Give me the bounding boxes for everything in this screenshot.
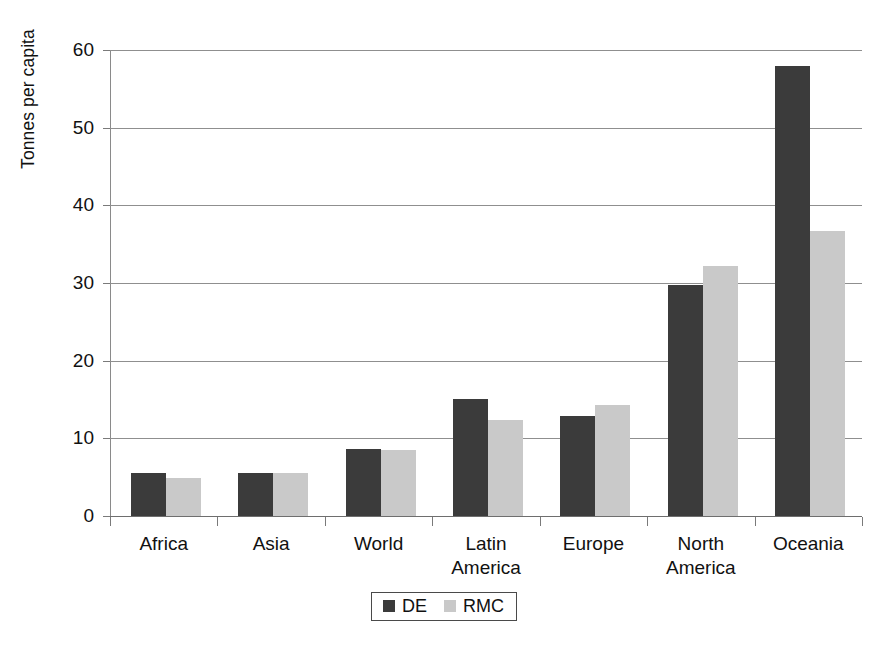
x-tick xyxy=(217,517,218,526)
y-tick-label: 20 xyxy=(24,351,94,370)
x-tick xyxy=(325,517,326,526)
x-axis-category-label: Oceania xyxy=(728,532,888,556)
x-label-line: America xyxy=(621,556,781,580)
bar-rmc xyxy=(273,473,308,516)
y-tick xyxy=(103,361,110,362)
bar-de xyxy=(775,66,810,516)
bar-rmc xyxy=(381,450,416,516)
y-tick xyxy=(103,438,110,439)
y-tick xyxy=(103,516,110,517)
figure-caption xyxy=(0,643,896,652)
bar-de xyxy=(453,399,488,516)
x-tick xyxy=(755,517,756,526)
bar-chart-figure: Tonnes per capita AfricaAsiaWorldLatinAm… xyxy=(0,0,896,652)
y-tick-label: 60 xyxy=(24,40,94,59)
legend-item-de: DE xyxy=(383,597,427,615)
x-tick xyxy=(432,517,433,526)
legend-swatch-icon xyxy=(383,600,395,612)
bar-de xyxy=(238,473,273,516)
y-tick xyxy=(103,205,110,206)
y-tick-label: 40 xyxy=(24,195,94,214)
gridline xyxy=(110,283,862,284)
y-tick-label: 10 xyxy=(24,428,94,447)
bar-rmc xyxy=(703,266,738,516)
y-tick xyxy=(103,283,110,284)
x-tick xyxy=(862,517,863,526)
gridline xyxy=(110,361,862,362)
x-tick xyxy=(540,517,541,526)
y-tick-label: 50 xyxy=(24,118,94,137)
bar-de xyxy=(131,473,166,516)
bar-rmc xyxy=(595,405,630,516)
bar-rmc xyxy=(166,478,201,516)
chart-legend: DERMC xyxy=(371,592,517,621)
y-axis-title: Tonnes per capita xyxy=(18,0,44,204)
bar-rmc xyxy=(810,231,845,516)
gridline xyxy=(110,516,862,517)
y-tick xyxy=(103,50,110,51)
bar-de xyxy=(346,449,381,516)
plot-area: AfricaAsiaWorldLatinAmericaEuropeNorthAm… xyxy=(110,50,862,516)
bar-de xyxy=(560,416,595,516)
bar-de xyxy=(668,285,703,516)
legend-label: DE xyxy=(402,597,427,615)
legend-label: RMC xyxy=(463,597,504,615)
gridline xyxy=(110,50,862,51)
x-tick xyxy=(110,517,111,526)
gridline xyxy=(110,205,862,206)
x-tick xyxy=(647,517,648,526)
gridline xyxy=(110,128,862,129)
x-label-line: America xyxy=(406,556,566,580)
legend-item-rmc: RMC xyxy=(444,597,504,615)
y-tick xyxy=(103,128,110,129)
legend-swatch-icon xyxy=(444,600,456,612)
bar-rmc xyxy=(488,420,523,516)
y-tick-label: 30 xyxy=(24,273,94,292)
x-label-line: Oceania xyxy=(728,532,888,556)
y-tick-label: 0 xyxy=(24,506,94,525)
